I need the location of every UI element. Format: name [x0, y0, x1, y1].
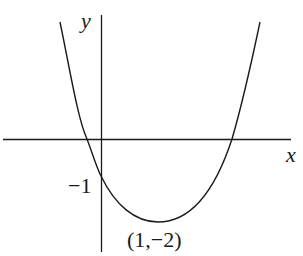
graph-canvas [0, 0, 303, 256]
x-axis-label: x [286, 144, 296, 166]
y-axis-label: y [81, 10, 91, 32]
y-intercept-label: −1 [68, 175, 91, 197]
function-graph: y x −1 (1,−2) [0, 0, 303, 256]
minimum-point-label: (1,−2) [127, 229, 182, 251]
